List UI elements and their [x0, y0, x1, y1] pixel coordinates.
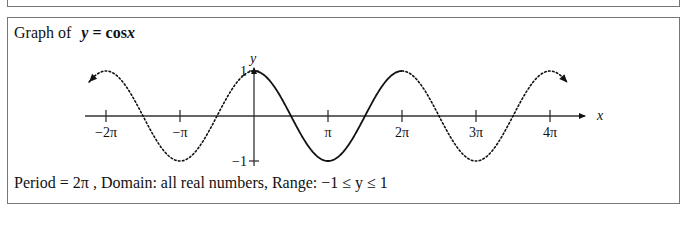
svg-text:π: π: [324, 125, 331, 140]
x-ticks: −2π−ππ2π3π4π: [95, 110, 557, 140]
svg-text:2π: 2π: [395, 125, 409, 140]
function-properties: Period = 2π , Domain: all real numbers, …: [14, 174, 388, 192]
svg-text:3π: 3π: [469, 125, 483, 140]
x-axis-label: x: [596, 108, 604, 123]
y-axis-label: y: [248, 51, 257, 66]
svg-text:−2π: −2π: [95, 125, 117, 140]
svg-text:4π: 4π: [543, 125, 557, 140]
svg-text:−π: −π: [173, 125, 188, 140]
svg-text:−1: −1: [232, 154, 247, 169]
